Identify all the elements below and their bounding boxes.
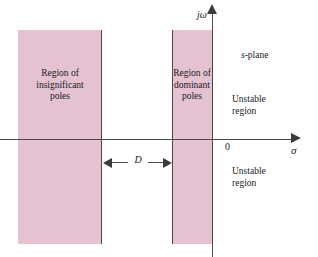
unstable-upper-line-1: Unstable [232,94,266,106]
sigma-axis-line [0,139,293,140]
region-insignificant-line-1: Region of [18,68,102,80]
region-dominant-poles [172,30,212,244]
sigma-axis-label: σ [291,144,296,156]
s-plane-figure: jω σ 0 s-plane Region of insignificant p… [0,0,318,257]
s-plane-label-rest: -plane [245,50,269,60]
jomega-axis-arrowhead-icon [207,4,217,14]
dimension-d-group: D [102,155,173,171]
unstable-lower-line-2: region [232,178,266,190]
region-insignificant-poles-label: Region of insignificant poles [18,68,102,103]
unstable-region-lower-label: Unstable region [232,166,266,189]
origin-label: 0 [225,141,230,152]
region-dominant-line-1: Region of [166,68,218,80]
region-dominant-line-2: dominant [166,80,218,92]
s-plane-label: s-plane [241,50,268,60]
region-insignificant-poles [18,30,102,244]
dimension-d-right-arrowhead-icon [163,158,172,168]
unstable-lower-line-1: Unstable [232,166,266,178]
jomega-axis-line [212,12,213,257]
region-dominant-poles-label: Region of dominant poles [166,68,218,103]
jomega-axis-label: jω [197,9,207,20]
sigma-axis-arrowhead-icon [291,133,301,143]
region-insignificant-line-2: insignificant [18,80,102,92]
unstable-region-upper-label: Unstable region [232,94,266,117]
dimension-d-left-arrowhead-icon [103,158,112,168]
region-insignificant-line-3: poles [18,91,102,103]
region-dominant-line-3: poles [166,91,218,103]
unstable-upper-line-2: region [232,106,266,118]
dimension-d-label: D [128,154,148,165]
